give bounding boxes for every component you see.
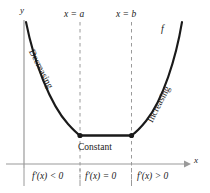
cut-line-label-b: x = b [116, 10, 136, 20]
y-axis-label: y [20, 6, 24, 15]
critical-point-a-dot [77, 133, 82, 138]
sign-label-negative: f′(x) < 0 [32, 172, 63, 182]
region-label-constant: Constant [78, 143, 112, 153]
cut-line-label-a: x = a [64, 10, 84, 20]
graph-canvas [0, 0, 210, 193]
sign-label-positive: f′(x) > 0 [137, 172, 168, 182]
curve-decreasing-branch [26, 22, 80, 136]
x-axis-label: x [194, 156, 198, 165]
derivative-sign-figure: y x x = a x = b f Decreasing Increasing … [0, 0, 210, 193]
sign-label-zero: f′(x) = 0 [85, 172, 116, 182]
curve-label-f: f [161, 24, 164, 34]
critical-point-b-dot [129, 133, 134, 138]
x-axis-arrowhead [184, 161, 191, 168]
